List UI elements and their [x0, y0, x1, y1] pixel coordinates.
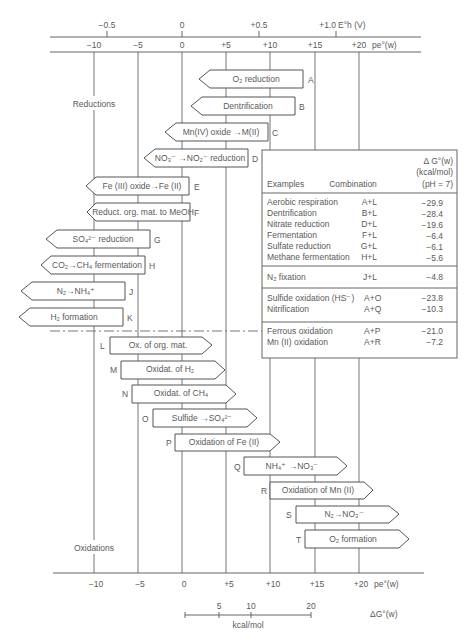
svg-text:A+Q: A+Q [364, 304, 382, 314]
svg-text:J+L: J+L [363, 272, 377, 282]
svg-text:N₂ fixation: N₂ fixation [267, 272, 306, 282]
pe-tick: −10 [87, 40, 102, 50]
oxidation-id: S [286, 510, 292, 520]
oxidation-label: Oxidat. of H₂ [146, 364, 194, 374]
svg-text:H+L: H+L [361, 252, 377, 262]
reduction-label: Mn(IV) oxide →M(II) [183, 127, 260, 137]
svg-text:Nitrification: Nitrification [267, 304, 309, 314]
svg-text:−4.8: −4.8 [426, 272, 443, 282]
svg-text:Fermentation: Fermentation [267, 230, 317, 240]
eh-tick: −0.5 [99, 20, 116, 30]
svg-text:G+L: G+L [361, 241, 378, 251]
header-dg: Δ G°(w) [424, 156, 454, 166]
svg-text:A+O: A+O [364, 293, 382, 303]
oxidation-Q: NH₄⁺ →NO₃⁻ Q [234, 457, 347, 475]
pe-axis-top: −10 −5 0 +5 +10 +15 +20 pe°(w) [50, 40, 421, 52]
reduction-label: N₂→NH₄⁺ [57, 286, 96, 296]
svg-text:F+L: F+L [362, 230, 377, 240]
reduction-C: Mn(IV) oxide →M(II) C [165, 123, 278, 141]
oxidation-label: NH₄⁺ →NO₃⁻ [266, 461, 319, 471]
svg-text:B+L: B+L [362, 208, 378, 218]
svg-text:−21.0: −21.0 [421, 326, 443, 336]
pe-tick: +15 [310, 579, 325, 589]
svg-text:Nitrate reduction: Nitrate reduction [267, 219, 330, 229]
pe-tick: +20 [354, 579, 369, 589]
reductions-label: Reductions [73, 99, 116, 109]
oxidation-id: Q [234, 462, 241, 472]
oxidation-label: O₂ formation [329, 534, 377, 544]
redox-ladder-diagram: −0.5 0 +0.5 +1.0 E°h (V) −10 −5 0 +5 +10… [0, 0, 471, 644]
svg-text:Ferrous oxidation: Ferrous oxidation [267, 326, 333, 336]
svg-text:Aerobic respiration: Aerobic respiration [267, 197, 338, 207]
svg-text:−6.4: −6.4 [426, 231, 443, 241]
oxidation-id: N [122, 389, 128, 399]
oxidation-S: N₂→NO₃⁻ S [286, 506, 399, 523]
header-examples: Examples [267, 179, 304, 189]
eh-tick: 0 [180, 20, 185, 30]
svg-text:−29.9: −29.9 [421, 198, 443, 208]
reduction-id: C [272, 128, 278, 138]
dg-scale-bar: 5 10 20 kcal/mol ΔG°(w) [185, 601, 398, 630]
pe-axis-unit: pe°(w) [374, 579, 399, 589]
oxidation-id: L [100, 341, 105, 351]
pe-tick: −5 [135, 579, 145, 589]
svg-text:Mn (II) oxidation: Mn (II) oxidation [267, 337, 328, 347]
svg-text:−19.6: −19.6 [421, 220, 443, 230]
svg-text:A+R: A+R [364, 337, 381, 347]
svg-text:Sulfate reduction: Sulfate reduction [267, 241, 331, 251]
reduction-label: Dentrification [223, 101, 273, 111]
pe-tick: +5 [224, 579, 234, 589]
header-combination: Combination [329, 179, 377, 189]
reduction-id: K [127, 313, 133, 323]
oxidation-id: O [142, 414, 149, 424]
oxidation-N: Oxidat. of CH₄ N [122, 385, 236, 403]
svg-text:Dentrification: Dentrification [267, 208, 317, 218]
pe-axis-unit: pe°(w) [372, 40, 397, 50]
oxidation-id: P [166, 438, 172, 448]
reduction-F: Reduct. org. mat. to MeOH F [87, 203, 199, 221]
oxidation-P: Oxidation of Fe (II) P [166, 434, 280, 451]
header-dg-ph: (pH = 7) [422, 179, 453, 189]
eh-axis-unit: E°h (V) [338, 20, 366, 30]
reduction-label: H₂ formation [50, 312, 98, 322]
pe-tick: +15 [308, 40, 323, 50]
reduction-J: N₂→NH₄⁺ J [21, 282, 133, 300]
svg-text:Methane fermentation: Methane fermentation [267, 252, 350, 262]
free-energy-table: Δ G°(w) (kcal/mol) (pH = 7) Examples Com… [262, 150, 457, 358]
reduction-K: H₂ formation K [19, 308, 133, 326]
oxidation-id: T [296, 535, 301, 545]
reduction-label: Fe (III) oxide→Fe (II) [103, 181, 182, 191]
reduction-id: G [154, 235, 161, 245]
oxidation-label: Oxidation of Mn (II) [282, 485, 354, 495]
reduction-label: O₂ reduction [232, 74, 280, 84]
reduction-id: J [129, 287, 133, 297]
svg-text:D+L: D+L [361, 219, 377, 229]
reduction-id: B [299, 102, 305, 112]
pe-tick: +20 [352, 40, 367, 50]
dg-tick: 5 [217, 601, 222, 611]
reduction-label: CO₂→CH₄ fermentation [52, 260, 142, 270]
oxidation-label: Oxidat. of CH₄ [154, 388, 209, 398]
svg-text:−7.2: −7.2 [426, 337, 443, 347]
oxidation-label: Sulfide →SO₄²⁻ [172, 413, 232, 423]
reduction-B: Dentrification B [191, 97, 305, 115]
svg-text:−5.6: −5.6 [426, 253, 443, 263]
svg-text:−10.3: −10.3 [421, 304, 443, 314]
reduction-id: E [194, 182, 200, 192]
pe-tick: 0 [182, 579, 187, 589]
reduction-id: F [194, 208, 199, 218]
oxidation-M: Oxidat. of H₂ M [110, 361, 225, 379]
svg-text:A+P: A+P [364, 326, 381, 336]
oxidation-id: M [110, 365, 117, 375]
pe-tick: +10 [266, 579, 281, 589]
oxidation-O: Sulfide →SO₄²⁻ O [142, 409, 257, 427]
header-dg-unit: (kcal/mol) [416, 167, 453, 177]
oxidation-L: Ox. of org. mat. L [100, 337, 212, 354]
svg-text:−6.1: −6.1 [426, 242, 443, 252]
pe-tick: −10 [89, 579, 104, 589]
reduction-id: A [308, 75, 314, 85]
svg-text:Sulfide oxidation (HS⁻): Sulfide oxidation (HS⁻) [267, 293, 354, 303]
reduction-id: H [149, 261, 155, 271]
reduction-label: Reduct. org. mat. to MeOH [92, 207, 194, 217]
dg-scale-unit: kcal/mol [232, 620, 263, 630]
